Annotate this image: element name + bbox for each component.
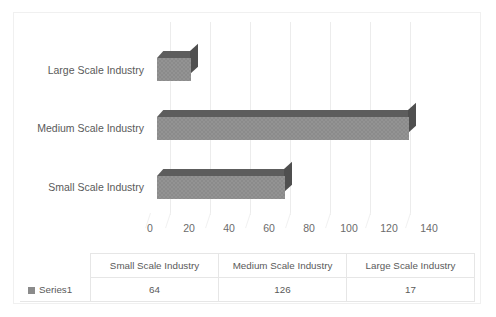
axis-tick-label-120: 120: [374, 222, 404, 234]
category-label-medium-scale-industry: Medium Scale Industry: [4, 122, 144, 134]
chart-container: Large Scale Industry Medium Scale Indust…: [0, 0, 496, 317]
bar-top-face: [157, 110, 415, 117]
table-row: Series1 64 126 17: [20, 278, 475, 302]
floor-tick-40: [205, 213, 211, 229]
bar-top-face: [157, 169, 291, 176]
axis-tick-label-140: 140: [414, 222, 444, 234]
table-header-large-scale-industry: Large Scale Industry: [347, 254, 475, 278]
bar-side-face: [190, 44, 198, 74]
axis-tick-label-0: 0: [135, 222, 165, 234]
plot-area: Large Scale Industry Medium Scale Indust…: [0, 0, 496, 250]
bar-medium-scale-industry[interactable]: [157, 110, 409, 133]
axis-tick-label-40: 40: [214, 222, 244, 234]
floor-tick-120: [365, 213, 371, 229]
table-cell-medium-scale-industry: 126: [219, 278, 347, 302]
table-cell-large-scale-industry: 17: [347, 278, 475, 302]
category-label-small-scale-industry: Small Scale Industry: [4, 181, 144, 193]
floor-tick-140: [405, 213, 411, 229]
table-header-row: Small Scale Industry Medium Scale Indust…: [20, 254, 475, 278]
floor-tick-100: [325, 213, 331, 229]
legend-swatch-icon: [28, 287, 35, 294]
data-table: Small Scale Industry Medium Scale Indust…: [20, 253, 475, 302]
table-header-medium-scale-industry: Medium Scale Industry: [219, 254, 347, 278]
axis-tick-label-60: 60: [254, 222, 284, 234]
table-corner-cell: [20, 254, 91, 278]
bar-front-face: [157, 117, 409, 140]
bar-front-face: [157, 176, 285, 199]
bar-side-face: [408, 103, 416, 133]
axis-tick-label-20: 20: [174, 222, 204, 234]
table-cell-small-scale-industry: 64: [91, 278, 219, 302]
axis-tick-label-100: 100: [334, 222, 364, 234]
floor-tick-60: [245, 213, 251, 229]
legend-series1: Series1: [20, 278, 91, 302]
axis-tick-label-80: 80: [294, 222, 324, 234]
table-header-small-scale-industry: Small Scale Industry: [91, 254, 219, 278]
floor-tick-80: [285, 213, 291, 229]
legend-series-label: Series1: [39, 284, 72, 295]
bar-large-scale-industry[interactable]: [157, 51, 191, 74]
bar-small-scale-industry[interactable]: [157, 169, 285, 192]
bar-front-face: [157, 58, 191, 81]
floor-tick-20: [165, 213, 171, 229]
category-label-large-scale-industry: Large Scale Industry: [4, 64, 144, 76]
